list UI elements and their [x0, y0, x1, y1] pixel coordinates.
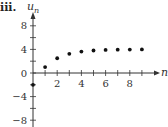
chart: iii. 2468840−4−8 n un — [0, 0, 168, 127]
data-point — [128, 48, 132, 52]
data-point — [116, 48, 120, 52]
y-tick-label: 0 — [21, 68, 27, 79]
panel-label: iii. — [0, 1, 16, 14]
data-point — [31, 83, 35, 87]
y-tick-label: 4 — [21, 44, 27, 55]
x-axis-arrow-icon — [154, 71, 160, 76]
y-tick-label: −4 — [12, 91, 27, 102]
data-point — [104, 48, 108, 52]
data-point — [43, 65, 47, 69]
data-point — [55, 56, 59, 60]
x-tick-label: 4 — [78, 78, 84, 89]
x-axis-label: n — [161, 66, 168, 79]
axes — [31, 12, 161, 127]
x-tick-label: 2 — [54, 78, 60, 89]
data-point — [80, 50, 84, 54]
data-point — [92, 49, 96, 53]
data-point — [140, 48, 144, 52]
y-axis-label-subscript: n — [34, 6, 39, 15]
x-tick-label: 8 — [127, 78, 133, 89]
data-point — [67, 52, 71, 56]
y-tick-label: 8 — [21, 20, 27, 31]
y-axis-label-main: u — [27, 0, 34, 13]
y-tick-label: −8 — [12, 115, 27, 126]
x-tick-label: 6 — [102, 78, 108, 89]
y-axis-label: un — [27, 0, 39, 15]
